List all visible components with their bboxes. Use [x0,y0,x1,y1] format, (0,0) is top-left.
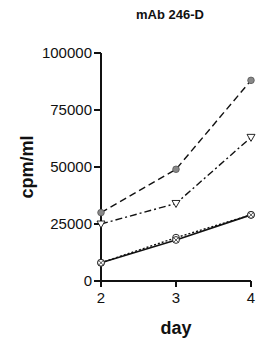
x-axis-label: day [160,318,191,338]
data-point [247,134,255,141]
data-point [98,209,105,216]
y-tick-label: 75000 [50,101,92,118]
x-tick-label: 3 [172,289,180,306]
x-axis: 234 [95,281,255,306]
y-axis: 0250005000075000100000 [42,44,101,289]
y-tick-label: 25000 [50,215,92,232]
series-layer [97,77,255,266]
line-chart: mAb 246-D 0250005000075000100000 234 cpm… [0,0,268,350]
y-tick-label: 0 [84,272,92,289]
series-crossed-circle [98,211,255,266]
y-tick-label: 100000 [42,44,92,61]
y-tick-label: 50000 [50,158,92,175]
data-point [172,200,180,207]
data-point [248,77,255,84]
y-axis-label: cpm/ml [17,135,37,198]
x-tick-label: 4 [247,289,255,306]
chart-title: mAb 246-D [136,7,204,22]
data-point [173,166,180,173]
x-tick-label: 2 [97,289,105,306]
series-open-triangle [97,134,255,228]
series-filled-circle [98,77,255,216]
